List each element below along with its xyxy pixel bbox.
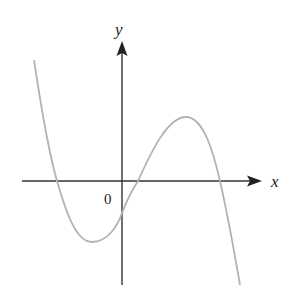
y-axis-label: y (113, 20, 123, 39)
cubic-function-graph: y x 0 (0, 0, 297, 299)
x-axis-label: x (270, 172, 279, 191)
origin-label: 0 (104, 191, 112, 207)
cubic-curve (34, 60, 240, 285)
